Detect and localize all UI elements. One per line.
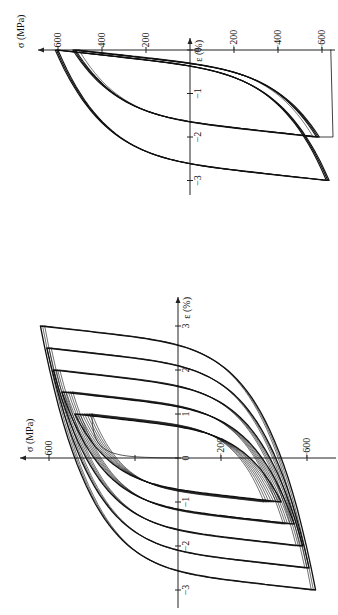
strain-axis-arrow-icon bbox=[188, 38, 193, 44]
sigma-tick-label: −600 bbox=[301, 438, 312, 459]
chart-offset-cycles: 600400200−200−400−6000−1−2−3σ (MPa)ε (%) bbox=[15, 15, 335, 195]
limit-line bbox=[317, 50, 334, 137]
strain-axis-label: ε (%) bbox=[193, 40, 205, 62]
strain-axis-label: ε (%) bbox=[181, 297, 193, 319]
sigma-tick-label: 600 bbox=[43, 441, 54, 456]
sigma-tick-label: 600 bbox=[52, 33, 63, 48]
sigma-tick-label: 200 bbox=[140, 33, 151, 48]
hysteresis-loop bbox=[58, 50, 326, 181]
sigma-axis-arrow-icon bbox=[20, 456, 26, 461]
sigma-axis-label: σ (MPa) bbox=[15, 15, 27, 48]
sigma-tick-label: −400 bbox=[272, 30, 283, 51]
strain-tick-label: 0 bbox=[180, 456, 191, 461]
strain-tick-label: −3 bbox=[180, 585, 191, 596]
strain-axis-arrow-icon bbox=[176, 297, 181, 303]
strain-tick-label: −2 bbox=[192, 132, 203, 143]
strain-tick-label: −3 bbox=[192, 175, 203, 186]
strain-tick-label: −1 bbox=[192, 88, 203, 99]
figure: 600400200−200−400−6000−1−2−3σ (MPa)ε (%)… bbox=[0, 0, 338, 615]
chart-symmetric-cycles: 600−200−600−3−2−10123σ (MPa)ε (%) bbox=[20, 297, 336, 608]
hysteresis-loop bbox=[57, 50, 328, 181]
strain-tick-label: −1 bbox=[180, 497, 191, 508]
figure-canvas: 600400200−200−400−6000−1−2−3σ (MPa)ε (%)… bbox=[0, 0, 338, 615]
strain-tick-label: 1 bbox=[180, 412, 191, 417]
strain-tick-label: −2 bbox=[180, 541, 191, 552]
sigma-tick-label: −200 bbox=[228, 30, 239, 51]
sigma-tick-label: −600 bbox=[316, 30, 327, 51]
sigma-tick-label: 400 bbox=[96, 33, 107, 48]
sigma-axis-arrow-icon bbox=[38, 48, 44, 53]
strain-tick-label: 3 bbox=[180, 324, 191, 329]
sigma-axis-label: σ (MPa) bbox=[24, 419, 36, 452]
